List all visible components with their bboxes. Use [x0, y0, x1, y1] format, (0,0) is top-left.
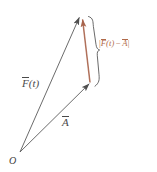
- magnitude-overbar-A: [122, 39, 127, 40]
- magnitude-label-A-text: A: [122, 38, 127, 48]
- vector-label-F-of-t: F(t): [22, 78, 39, 89]
- vector-diagram-figure: F(t) A O |F(t)−A|: [0, 0, 157, 172]
- magnitude-label-F-text: F: [101, 38, 106, 48]
- magnitude-minus-sign: −: [116, 38, 121, 48]
- vector-overbar-A: [62, 116, 69, 117]
- vector-label-A: A: [62, 117, 69, 128]
- magnitude-label-A-glyph: A: [122, 39, 127, 48]
- position-vector-A: [20, 84, 89, 152]
- origin-label: O: [9, 156, 16, 166]
- vector-label-A-text: A: [62, 116, 69, 128]
- vector-label-F-text: F: [22, 77, 29, 89]
- vector-label-F-glyph: F: [22, 78, 29, 89]
- magnitude-label-F-minus-A: |F(t)−A|: [99, 39, 129, 48]
- magnitude-label-F-glyph: F: [101, 39, 106, 48]
- difference-vector-F-minus-A: [83, 20, 90, 83]
- magnitude-brace: [89, 17, 100, 87]
- vector-overbar-F: [22, 77, 29, 78]
- magnitude-overbar-F: [101, 39, 106, 40]
- magnitude-label-arg: (t): [106, 38, 114, 48]
- vector-label-A-glyph: A: [62, 117, 69, 128]
- vector-label-F-arg: (t): [29, 77, 39, 89]
